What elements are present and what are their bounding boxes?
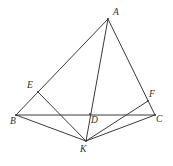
- vertex-label-C: C: [156, 115, 162, 125]
- geometry-canvas: [0, 0, 173, 166]
- vertex-dot-F: [147, 100, 149, 102]
- vertex-dot-group: [15, 18, 156, 142]
- segment-BK: [16, 115, 86, 141]
- vertex-label-F: F: [149, 90, 155, 100]
- vertex-dot-E: [37, 91, 39, 93]
- vertex-label-D: D: [91, 116, 98, 126]
- vertex-label-A: A: [113, 8, 119, 18]
- vertex-label-E: E: [27, 81, 33, 91]
- vertex-dot-A: [107, 18, 109, 20]
- geometry-figure: A E B D K F C: [0, 0, 173, 166]
- vertex-label-B: B: [10, 117, 16, 127]
- segment-AB: [16, 19, 108, 115]
- segment-group: [16, 19, 155, 141]
- vertex-dot-K: [85, 140, 87, 142]
- vertex-label-K: K: [80, 145, 86, 155]
- segment-EK: [38, 92, 86, 141]
